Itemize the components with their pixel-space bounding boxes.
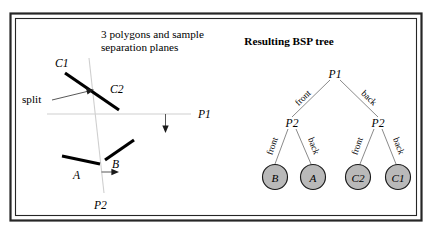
tree-leaf-a: A — [301, 165, 326, 190]
polygon-label-c2: C2 — [110, 83, 124, 96]
left-panel: 3 polygons and sample separation planes … — [22, 28, 211, 212]
right-panel: Resulting BSP tree P1 P2 P2 front back — [244, 35, 410, 190]
tree-edge-label-root-front: front — [293, 88, 313, 108]
polygon-segment-a — [62, 156, 100, 164]
plane-p1-normal-arrow — [162, 114, 168, 133]
tree-leaf-label-c1: C1 — [391, 172, 404, 184]
tree-node-left-p2: P2 — [285, 117, 299, 130]
plane-p1-label: P1 — [197, 108, 211, 121]
tree-node-right-p2: P2 — [371, 117, 385, 130]
tree-leaf-label-b: B — [272, 172, 279, 184]
separation-plane-p1: P1 — [47, 108, 211, 133]
tree-node-root-p1: P1 — [328, 68, 342, 81]
tree-leaf-label-c2: C2 — [351, 172, 364, 184]
tree-edge-label-root-back: back — [359, 88, 379, 108]
tree-leaf-c1: C1 — [386, 165, 411, 190]
tree-leaf-label-a: A — [309, 172, 317, 184]
plane-p2-label: P2 — [93, 199, 107, 212]
polygon-label-a: A — [72, 169, 81, 182]
polygon-label-b: B — [112, 158, 119, 171]
tree-edge-label-right-front: front — [349, 135, 365, 156]
polygon-label-c1: C1 — [55, 57, 69, 70]
bsp-tree-figure: 3 polygons and sample separation planes … — [0, 0, 432, 233]
right-panel-title: Resulting BSP tree — [244, 35, 333, 47]
tree-leaf-c2: C2 — [346, 165, 371, 190]
tree-edge-label-right-back: back — [391, 136, 406, 156]
split-annotation: split — [22, 88, 94, 105]
split-label: split — [22, 93, 42, 105]
separation-plane-p2: P2 — [89, 58, 119, 212]
tree-edge-label-left-front: front — [264, 135, 280, 156]
tree-leaf-b: B — [263, 165, 288, 190]
left-panel-title-line1: 3 polygons and sample — [101, 28, 204, 40]
tree-edge-label-left-back: back — [306, 136, 321, 156]
polygon-segment-b — [105, 140, 134, 160]
left-panel-title-line2: separation planes — [101, 41, 178, 53]
